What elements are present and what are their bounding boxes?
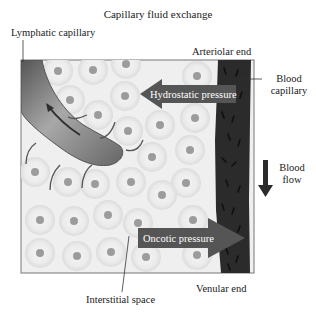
cell xyxy=(93,200,123,230)
cell xyxy=(59,206,89,236)
cell xyxy=(147,180,177,210)
interstitial-box: Hydrostatic pressure Oncotic pressure xyxy=(20,49,254,273)
cell xyxy=(137,142,167,172)
cell xyxy=(145,110,175,140)
cell xyxy=(96,237,126,267)
hydrostatic-pressure-label: Hydrostatic pressure xyxy=(150,89,237,100)
capillary-diagram: Hydrostatic pressure Oncotic pressure xyxy=(0,0,316,316)
cell xyxy=(111,49,141,79)
oncotic-pressure-label: Oncotic pressure xyxy=(143,233,214,244)
cell xyxy=(175,135,205,165)
cell xyxy=(110,81,140,111)
cell xyxy=(113,116,143,146)
cell xyxy=(25,205,55,235)
cell xyxy=(20,157,50,187)
cell xyxy=(53,167,83,197)
cell xyxy=(62,241,92,271)
cell xyxy=(116,167,146,197)
cell xyxy=(180,103,210,133)
cell xyxy=(83,100,113,130)
cell xyxy=(25,238,55,268)
blood-flow-arrow xyxy=(258,160,273,197)
